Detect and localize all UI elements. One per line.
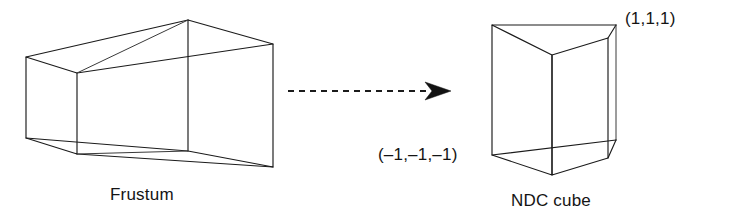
cube-front-face-edge [552,38,608,175]
frustum-bottom-right-edge [77,154,273,167]
frustum-top-left-edge [26,20,188,57]
cube-top-right-edge [608,25,616,38]
cube-left-face-edge [492,25,552,175]
cube-bottom-right-edge [608,140,616,158]
ndc-cube-wireframe [492,25,616,175]
arrow-head-icon [425,82,451,100]
transform-arrow [288,82,451,100]
cube-bottom-back-edge [492,140,616,155]
ndc-cube-caption: NDC cube [511,191,591,210]
frustum-inner-bottom-edge [77,151,188,154]
frustum-near-face-edge [26,57,77,154]
frustum-bottom-left-edge [26,138,188,151]
frustum-to-ndc-figure: Frustum (1,1,1) (–1,–1,–1) NDC cube [0,0,753,218]
frustum-wireframe [26,20,273,167]
frustum-far-face-edge [188,20,273,167]
ndc-min-corner-label: (–1,–1,–1) [378,145,458,164]
ndc-max-corner-label: (1,1,1) [625,9,676,28]
frustum-caption: Frustum [110,185,174,204]
